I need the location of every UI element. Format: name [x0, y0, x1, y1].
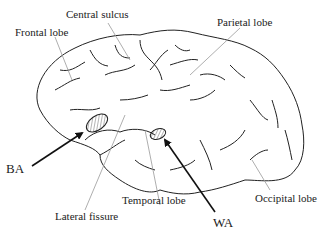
label-temporal-lobe: Temporal lobe: [122, 195, 186, 206]
label-ba: BA: [6, 162, 24, 175]
label-lateral-fissure: Lateral fissure: [55, 211, 118, 222]
brain-diagram: Central sulcus Frontal lobe Parietal lob…: [0, 0, 329, 236]
label-central-sulcus: Central sulcus: [66, 9, 129, 20]
wa-region: [149, 127, 167, 142]
label-wa: WA: [213, 216, 233, 229]
ba-arrow: [32, 133, 82, 166]
label-occipital-lobe: Occipital lobe: [255, 193, 317, 204]
brain-outline: [37, 30, 304, 194]
label-parietal-lobe: Parietal lobe: [217, 17, 272, 28]
label-frontal-lobe: Frontal lobe: [15, 27, 68, 38]
